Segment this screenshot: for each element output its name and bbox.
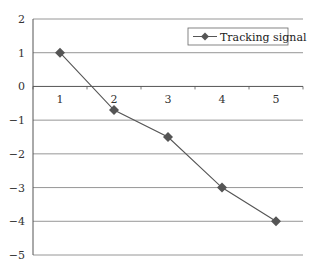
y-tick-label: −3 — [9, 182, 25, 195]
x-tick-label: 4 — [219, 93, 226, 106]
x-tick-label: 2 — [111, 93, 118, 106]
y-tick-label: 2 — [18, 13, 25, 26]
line-chart: 210−1−2−3−4−5 12345 Tracking signal — [0, 0, 321, 269]
x-tick-label: 1 — [57, 93, 64, 106]
data-point-marker — [271, 216, 281, 226]
x-tick-label: 3 — [165, 93, 172, 106]
x-tick-label: 5 — [273, 93, 280, 106]
series-tracking-signal — [55, 48, 281, 227]
y-tick-label: −1 — [9, 114, 25, 127]
legend-label: Tracking signal — [220, 31, 307, 44]
y-tick-label: 1 — [18, 47, 25, 60]
y-tick-label: −4 — [9, 215, 25, 228]
y-tick-label: −2 — [9, 148, 25, 161]
y-tick-labels: 210−1−2−3−4−5 — [9, 13, 25, 262]
legend: Tracking signal — [188, 28, 307, 45]
y-tick-label: 0 — [18, 80, 25, 93]
y-tick-label: −5 — [9, 249, 25, 262]
x-axis: 12345 — [33, 86, 303, 106]
